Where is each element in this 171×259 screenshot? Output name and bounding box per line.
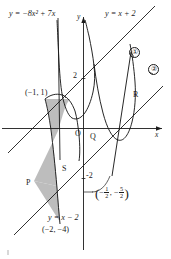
point-label-Q: Q <box>90 133 96 141</box>
math-figure: y = −8x² + 7x y = x + 2 y = x − 2 x y 2 … <box>0 0 171 259</box>
equation-line-lower: y = x − 2 <box>48 214 79 222</box>
point-label-O: O <box>75 130 81 138</box>
equation-parabola-left: y = −8x² + 7x <box>9 10 55 18</box>
steep-line-1 <box>112 52 131 176</box>
scan-artifact-speck <box>7 250 9 255</box>
equation-line-upper: y = x + 2 <box>105 10 136 18</box>
y-tick-label-minus-2: -2 <box>86 172 93 180</box>
steep-line-left <box>58 18 60 160</box>
fraction-2-sign: − <box>114 189 119 197</box>
y-tick-label-2: 2 <box>73 72 77 80</box>
fraction-1-denominator: 2 <box>104 192 109 200</box>
x-axis-label: x <box>155 131 158 139</box>
fraction-five-halves: 5 2 <box>119 186 124 200</box>
coord-label-fraction: ( − 1 2 , − 5 2 ) <box>95 186 129 200</box>
curve-tag-2: ② <box>148 64 159 75</box>
coord-label-minus2-minus4: (−2, −4) <box>42 226 69 234</box>
curve-tag-1: ① <box>129 47 140 58</box>
fraction-1-sign: − <box>99 189 104 197</box>
parabola-upward-right <box>94 44 135 140</box>
fraction-comma: , <box>110 189 112 197</box>
coord-label-minus1-1: (−1, 1) <box>25 89 47 97</box>
point-label-P: P <box>26 179 30 187</box>
fraction-close-paren: ) <box>124 187 128 200</box>
point-label-S: S <box>62 165 66 173</box>
figure-canvas <box>0 0 171 259</box>
fraction-2-denominator: 2 <box>119 192 124 200</box>
fraction-one-half: 1 2 <box>104 186 109 200</box>
line-y-eq-x-plus-2 <box>8 6 155 153</box>
line-y-eq-x-minus-2 <box>14 86 163 235</box>
y-axis-label: y <box>77 13 80 21</box>
point-label-R: R <box>133 91 138 99</box>
